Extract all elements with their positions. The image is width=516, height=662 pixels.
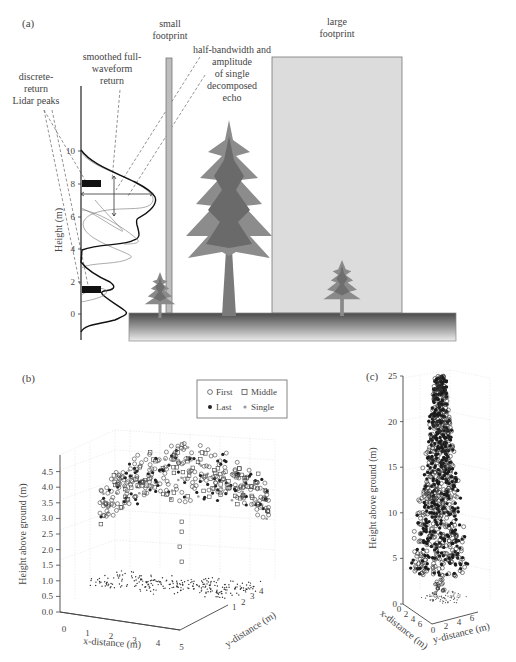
tick-label: 25 xyxy=(388,371,398,381)
panel-c-z-ticks: 0510152025 xyxy=(388,371,403,609)
tick-label: 0 xyxy=(62,624,67,634)
panel-b-y-axis-title: y-distance (m) xyxy=(223,609,279,650)
tick-label: 3.0 xyxy=(42,513,54,523)
tick-label: 4 xyxy=(156,638,161,648)
panel-b-y-ticks: 1234 xyxy=(232,586,264,613)
leader-lines xyxy=(44,57,205,285)
annotation-discrete-return: discrete- return Lidar peaks xyxy=(13,71,60,106)
tick-label: 3 xyxy=(250,591,255,601)
svg-text:of single: of single xyxy=(215,68,250,79)
last-marker-icon xyxy=(208,405,212,409)
svg-text:8: 8 xyxy=(71,179,76,189)
annotation-smoothed-waveform: smoothed full- waveform return xyxy=(83,51,142,86)
panel-b-z-axis-title: Height above ground (m) xyxy=(17,483,29,584)
tick-label: 2 xyxy=(241,597,246,607)
svg-text:decomposed: decomposed xyxy=(207,80,257,91)
waveform-axis: 0 2 4 6 8 10 Height (m) xyxy=(53,86,81,340)
panel-b-grid xyxy=(60,430,275,600)
tall-tree-icon xyxy=(186,120,272,316)
tick-label: 0.5 xyxy=(42,591,54,601)
tick-label: 6 xyxy=(418,619,423,629)
tick-label: 2 xyxy=(404,609,409,619)
svg-text:Single: Single xyxy=(251,402,274,412)
svg-text:2: 2 xyxy=(71,277,76,287)
height-axis-title: Height (m) xyxy=(53,208,65,252)
tick-label: 4 xyxy=(457,617,462,627)
tick-label: 1 xyxy=(232,602,237,612)
panel-b-point-cloud xyxy=(90,442,271,600)
svg-text:waveform: waveform xyxy=(92,63,133,74)
tick-label: 2.5 xyxy=(42,529,54,539)
waveform-curves xyxy=(81,150,156,332)
tick-label: 1.0 xyxy=(42,576,54,586)
svg-text:First: First xyxy=(216,387,233,397)
svg-text:footprint: footprint xyxy=(153,30,188,41)
large-footprint-area xyxy=(272,57,402,313)
tick-label: 4.0 xyxy=(42,482,54,492)
svg-text:footprint: footprint xyxy=(320,28,355,39)
tick-label: 10 xyxy=(388,508,398,518)
svg-text:smoothed full-: smoothed full- xyxy=(83,51,142,62)
single-marker-icon xyxy=(243,405,246,408)
ground-surface xyxy=(129,313,456,341)
svg-text:Lidar peaks: Lidar peaks xyxy=(13,95,60,106)
tick-label: 5 xyxy=(393,553,398,563)
annotation-half-bandwidth: half-bandwidth and amplitude of single d… xyxy=(193,44,271,103)
svg-text:0: 0 xyxy=(71,309,76,319)
svg-text:small: small xyxy=(159,18,181,29)
tick-label: 6 xyxy=(470,613,475,623)
panel-c: (c) 0510152025 0246 0246 Height above gr… xyxy=(366,370,491,652)
svg-text:amplitude: amplitude xyxy=(212,56,253,67)
svg-text:discrete-: discrete- xyxy=(19,71,53,82)
svg-text:Last: Last xyxy=(216,402,232,412)
svg-text:4: 4 xyxy=(71,244,76,254)
tick-label: 4.5 xyxy=(42,467,54,477)
tick-label: 15 xyxy=(388,462,398,472)
annotation-large-footprint: large footprint xyxy=(320,16,355,39)
annotation-small-footprint: small footprint xyxy=(153,18,188,41)
svg-text:return: return xyxy=(24,83,48,94)
tick-label: 1.5 xyxy=(42,560,54,570)
panel-b-label: (b) xyxy=(22,372,35,385)
svg-text:echo: echo xyxy=(223,92,242,103)
discrete-peak-bar-8m xyxy=(82,180,101,187)
panel-c-z-axis-title: Height above ground (m) xyxy=(367,447,379,548)
panel-c-y-axis-title: y-distance (m) xyxy=(432,620,491,646)
panel-b-z-ticks: 0.00.51.01.52.02.53.03.54.04.5 xyxy=(42,467,60,617)
tick-label: 20 xyxy=(388,417,398,427)
tick-label: 5 xyxy=(179,642,184,652)
tick-label: 4 xyxy=(411,614,416,624)
small-footprint-beam xyxy=(166,58,172,313)
svg-text:return: return xyxy=(100,75,124,86)
svg-text:large: large xyxy=(327,16,347,27)
tick-label: 0 xyxy=(397,604,402,614)
svg-text:Middle: Middle xyxy=(251,387,277,397)
panel-c-label: (c) xyxy=(366,370,379,383)
panel-a: (a) discrete- return Lidar peaks smoothe… xyxy=(13,16,456,341)
svg-text:10: 10 xyxy=(66,146,76,156)
tick-label: 4 xyxy=(259,586,264,596)
tick-label: 3.5 xyxy=(42,498,54,508)
svg-text:half-bandwidth and: half-bandwidth and xyxy=(193,44,271,55)
legend: First Middle Last Single xyxy=(197,380,287,418)
discrete-peak-bar-1-5m xyxy=(82,286,101,293)
panel-a-label: (a) xyxy=(22,17,35,30)
svg-text:6: 6 xyxy=(71,212,76,222)
height-ticks: 0 2 4 6 8 10 xyxy=(66,146,76,319)
figure-canvas: (a) discrete- return Lidar peaks smoothe… xyxy=(0,0,516,662)
panel-b: (b) First Middle Last Single xyxy=(17,372,287,652)
tick-label: 2.0 xyxy=(42,545,54,555)
tick-label: 0.0 xyxy=(42,607,54,617)
panel-c-point-cloud xyxy=(409,374,469,604)
